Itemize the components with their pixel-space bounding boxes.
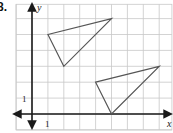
- y-tick-label: 1: [22, 94, 27, 104]
- x-tick-label: 1: [45, 119, 50, 129]
- coordinate-plane: y x 1 1: [0, 0, 173, 133]
- coordinate-figure: 8. y x 1 1: [0, 0, 173, 133]
- problem-number: 8.: [0, 0, 7, 14]
- x-axis-label: x: [166, 118, 172, 129]
- y-axis-label: y: [36, 2, 42, 13]
